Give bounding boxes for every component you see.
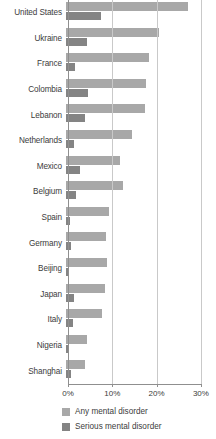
bar-group [66,358,216,384]
chart-legend: Any mental disorderSerious mental disord… [0,404,216,434]
category-label: Ukraine [0,34,66,43]
bar-serious-mental-disorder [66,38,87,46]
bar-any-mental-disorder [66,2,188,11]
chart-row: Colombia [0,77,216,103]
category-label: Beijing [0,264,66,273]
x-axis-tick-label: 30% [193,389,209,399]
bar-group [66,333,216,359]
category-label: Lebanon [0,111,66,120]
bar-group [66,282,216,308]
bar-any-mental-disorder [66,53,149,62]
legend-item[interactable]: Any mental disorder [0,404,216,419]
category-label: Netherlands [0,136,66,145]
x-axis-tick-label: 10% [104,389,120,399]
bar-group [66,154,216,180]
tick-mark [157,384,158,387]
chart-row: Belgium [0,179,216,205]
category-label: France [0,59,66,68]
bar-serious-mental-disorder [66,12,101,20]
legend-label: Any mental disorder [75,407,148,417]
chart-rows: United StatesUkraineFranceColombiaLebano… [0,0,216,384]
chart-row: France [0,51,216,77]
bar-group [66,179,216,205]
bar-group [66,0,216,26]
category-label: Colombia [0,85,66,94]
category-label: United States [0,8,66,17]
bar-serious-mental-disorder [66,89,88,97]
category-label: Germany [0,239,66,248]
category-label: Japan [0,290,66,299]
bar-serious-mental-disorder [66,319,73,327]
y-axis-line [68,0,69,384]
bar-any-mental-disorder [66,309,102,318]
chart-row: Japan [0,282,216,308]
bar-any-mental-disorder [66,335,87,344]
chart-row: United States [0,0,216,26]
x-axis-tick-labels: 0%10%20%30% [0,389,216,401]
chart-row: Mexico [0,154,216,180]
category-label: Spain [0,213,66,222]
chart-row: Netherlands [0,128,216,154]
x-axis-tick-label: 20% [149,389,165,399]
bar-group [66,51,216,77]
tick-mark [201,384,202,387]
bar-any-mental-disorder [66,284,105,293]
chart-row: Ukraine [0,26,216,52]
gridline [157,0,158,384]
bar-chart: United StatesUkraineFranceColombiaLebano… [0,0,216,439]
bar-group [66,102,216,128]
legend-item[interactable]: Serious mental disorder [0,419,216,434]
bar-group [66,205,216,231]
chart-row: Nigeria [0,333,216,359]
category-label: Shanghai [0,367,66,376]
chart-row: Beijing [0,256,216,282]
legend-swatch-icon [62,423,70,431]
x-axis-line [68,384,202,385]
bar-any-mental-disorder [66,207,109,216]
gridline [201,0,202,384]
bar-group [66,77,216,103]
chart-row: Shanghai [0,358,216,384]
chart-row: Italy [0,307,216,333]
bar-any-mental-disorder [66,181,123,190]
category-label: Mexico [0,162,66,171]
chart-row: Spain [0,205,216,231]
legend-label: Serious mental disorder [75,422,161,432]
category-label: Nigeria [0,341,66,350]
bar-group [66,128,216,154]
bar-any-mental-disorder [66,130,132,139]
legend-swatch-icon [62,408,70,416]
bar-group [66,230,216,256]
bar-group [66,26,216,52]
chart-row: Germany [0,230,216,256]
category-label: Belgium [0,187,66,196]
bar-group [66,307,216,333]
bar-any-mental-disorder [66,79,146,88]
tick-mark [68,384,69,387]
bar-any-mental-disorder [66,258,107,267]
bar-any-mental-disorder [66,232,106,241]
chart-row: Lebanon [0,102,216,128]
gridline [112,0,113,384]
bar-group [66,256,216,282]
bar-any-mental-disorder [66,104,145,113]
category-label: Italy [0,315,66,324]
x-axis-tick-label: 0% [62,389,74,399]
plot-area: United StatesUkraineFranceColombiaLebano… [0,0,216,386]
tick-mark [112,384,113,387]
